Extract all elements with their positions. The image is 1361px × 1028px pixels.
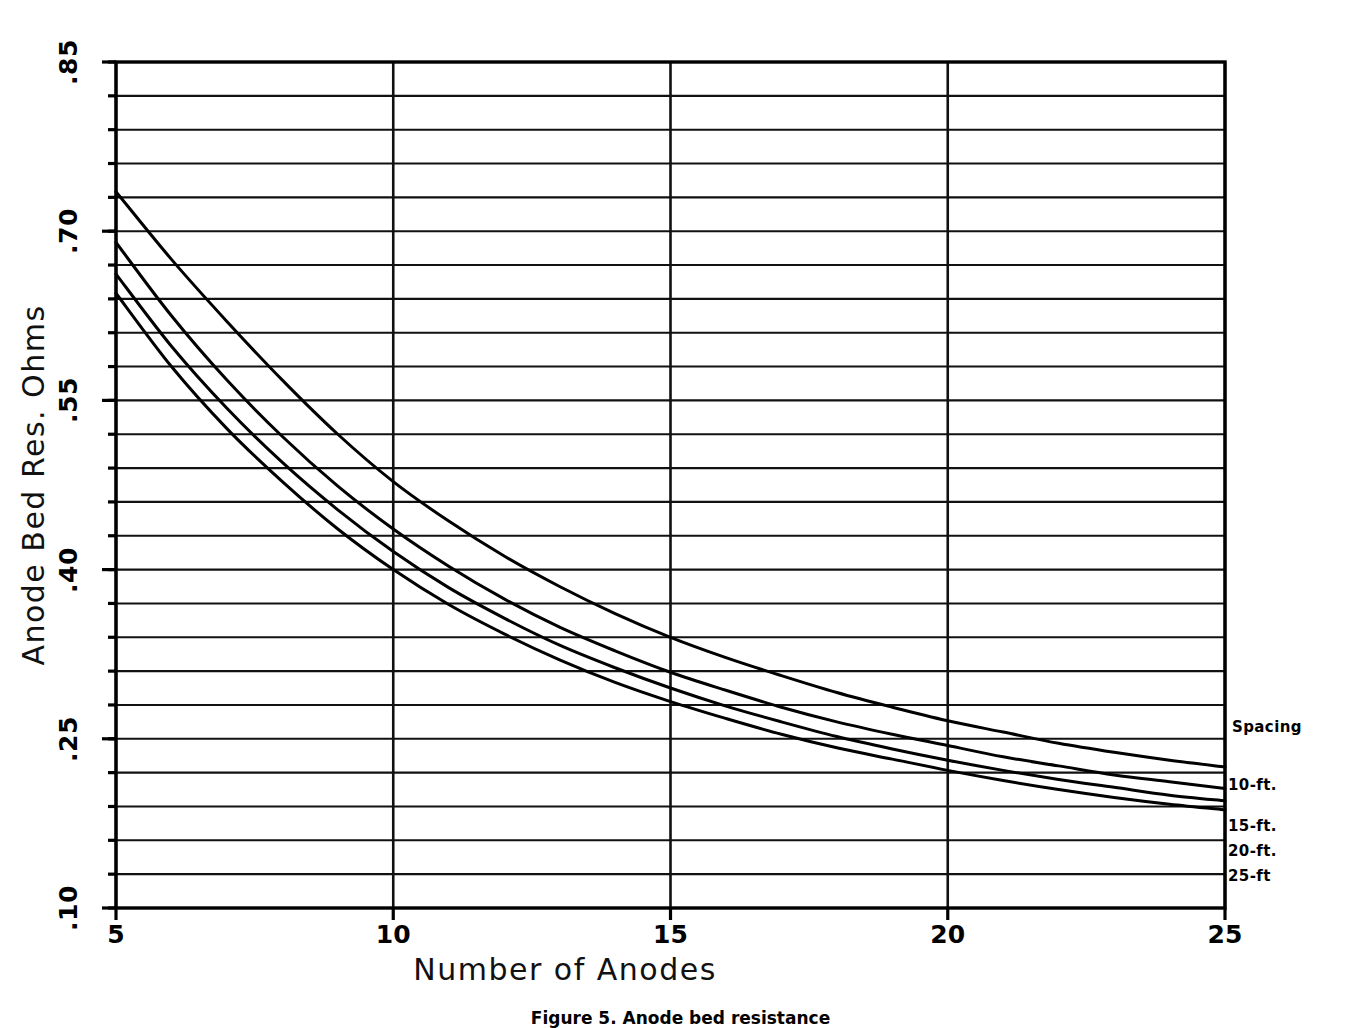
x-tick-label: 5: [81, 920, 151, 949]
y-tick-marks: [102, 62, 116, 908]
x-tick-label: 25: [1190, 920, 1260, 949]
plot-canvas: [0, 0, 1361, 1028]
legend-title: Spacing: [1232, 718, 1302, 736]
x-tick-label: 20: [913, 920, 983, 949]
legend-entry-20-ft[interactable]: 20-ft.: [1228, 842, 1277, 860]
legend-entry-10-ft[interactable]: 10-ft.: [1228, 776, 1277, 794]
y-tick-label: .85: [53, 32, 85, 92]
legend-entry-25-ft[interactable]: 25-ft: [1228, 867, 1271, 885]
y-tick-label: .25: [53, 709, 85, 769]
figure-root: Anode Bed Res. Ohms .85.70.55.40.25.10 5…: [0, 0, 1361, 1028]
figure-caption: Figure 5. Anode bed resistance: [0, 1008, 1361, 1028]
x-tick-label: 10: [358, 920, 428, 949]
y-tick-label: .70: [53, 201, 85, 261]
x-axis-title: Number of Anodes: [0, 952, 1130, 987]
vertical-gridlines: [116, 62, 1225, 908]
x-tick-marks: [116, 908, 1225, 920]
y-axis-title: Anode Bed Res. Ohms: [10, 62, 56, 908]
legend-entry-15-ft[interactable]: 15-ft.: [1228, 817, 1277, 835]
y-tick-label: .40: [53, 540, 85, 600]
y-tick-label: .55: [53, 370, 85, 430]
x-tick-label: 15: [636, 920, 706, 949]
